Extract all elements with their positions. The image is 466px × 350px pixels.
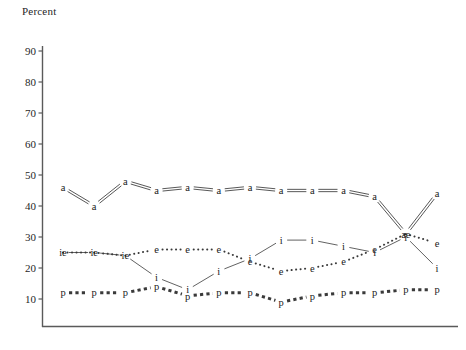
- series-e-segment: [349, 252, 369, 260]
- series-a-segment: [378, 202, 401, 230]
- point-marker-i-3: ie: [122, 250, 130, 261]
- point-marker-i-7: i: [249, 253, 252, 264]
- series-a-segment: [256, 189, 275, 191]
- point-marker-e-4: e: [154, 244, 159, 255]
- series-a-segment: [256, 187, 275, 189]
- point-marker-p-13: p: [434, 284, 439, 295]
- point-marker-p-10: p: [341, 287, 346, 298]
- point-marker-a-9: a: [310, 185, 315, 196]
- series-p-segment: [287, 297, 306, 301]
- series-e-segment: [256, 264, 276, 270]
- chart-container: Percent 90 80 70 60 50 40 30 20 10 aaaaa…: [0, 0, 466, 350]
- point-marker-a-6: a: [216, 185, 221, 196]
- series-e-segment: [224, 252, 244, 260]
- point-marker-a-3: a: [123, 176, 128, 187]
- series-a-segment: [379, 201, 402, 229]
- point-marker-p-4: p: [154, 281, 159, 292]
- series-a-segment: [100, 186, 122, 203]
- point-marker-p-12: p: [403, 284, 408, 295]
- series-i-segment: [162, 280, 182, 288]
- plot-area: aaaaaaaaaaaaeaeeeeeeeeeieieieiiiiiiiiiip…: [0, 0, 466, 350]
- series-i-segment: [410, 241, 433, 264]
- series-p-segment: [194, 293, 213, 295]
- series-i-segment: [255, 243, 276, 255]
- point-marker-a-13: a: [435, 188, 440, 199]
- point-marker-p-6: p: [216, 287, 221, 298]
- point-marker-e-9: e: [310, 263, 315, 274]
- series-p-segment: [256, 295, 276, 301]
- series-p-segment: [318, 293, 337, 295]
- point-marker-e-5: e: [185, 244, 190, 255]
- point-marker-i-6: i: [217, 266, 220, 277]
- point-marker-a-1: a: [61, 182, 66, 193]
- point-marker-i-11: i: [373, 247, 376, 258]
- series-i-segment: [224, 261, 244, 269]
- series-a-segment: [162, 187, 181, 189]
- point-marker-p-11: p: [372, 287, 377, 298]
- point-marker-a-4: a: [154, 185, 159, 196]
- point-marker-p-5: p: [185, 291, 190, 302]
- point-marker-a-10: a: [341, 185, 346, 196]
- series-a-segment: [194, 187, 213, 189]
- point-marker-i-9: i: [311, 235, 314, 246]
- point-marker-e-6: e: [216, 244, 221, 255]
- point-marker-p-8: p: [279, 297, 284, 308]
- series-a-segment: [225, 187, 244, 189]
- point-marker-p-9: p: [310, 291, 315, 302]
- series-p-segment: [162, 288, 182, 294]
- series-e-segment: [125, 251, 150, 256]
- point-marker-i-12: i: [404, 232, 407, 243]
- series-i-segment: [349, 247, 368, 251]
- series-a-segment: [68, 191, 89, 203]
- point-marker-a-2: a: [92, 201, 97, 212]
- series-a-segment: [194, 189, 213, 191]
- series-a-segment: [98, 184, 120, 201]
- series-layer: [63, 182, 434, 301]
- point-marker-a-8: a: [279, 185, 284, 196]
- point-marker-i-13: i: [436, 263, 439, 274]
- point-marker-e-8: e: [279, 266, 284, 277]
- series-e-segment: [318, 263, 337, 267]
- series-i-segment: [193, 274, 214, 286]
- point-marker-a-11: a: [372, 191, 377, 202]
- point-marker-p-3: p: [123, 287, 128, 298]
- point-marker-a-5: a: [185, 182, 190, 193]
- point-label-layer: aaaaaaaaaaaaeaeeeeeeeeeieieieiiiiiiiiiip…: [59, 176, 439, 308]
- point-marker-p-1: p: [60, 287, 65, 298]
- series-a-segment: [410, 199, 434, 230]
- series-a-segment: [69, 189, 90, 201]
- point-marker-i-1: ie: [59, 247, 67, 258]
- series-a-segment: [225, 189, 244, 191]
- series-e-segment: [287, 269, 306, 271]
- point-marker-e-13: e: [435, 238, 440, 249]
- series-p-segment: [381, 290, 400, 292]
- point-marker-p-2: p: [92, 287, 97, 298]
- series-a-segment: [409, 198, 433, 229]
- series-i-segment: [318, 241, 337, 245]
- point-marker-e-10: e: [341, 256, 346, 267]
- point-marker-p-7: p: [247, 287, 252, 298]
- point-marker-a-7: a: [248, 182, 253, 193]
- series-p-segment: [131, 288, 150, 292]
- series-i-segment: [130, 259, 151, 274]
- point-marker-i-10: i: [342, 241, 345, 252]
- series-a-segment: [163, 189, 182, 191]
- point-marker-i-2: ie: [90, 247, 98, 258]
- point-marker-i-8: i: [280, 235, 283, 246]
